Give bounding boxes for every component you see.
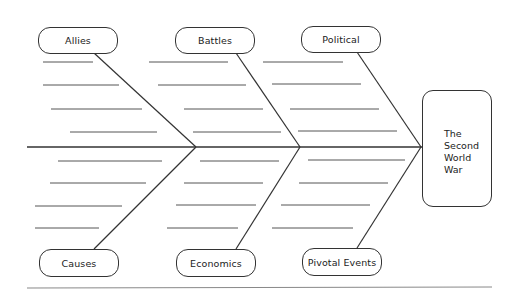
blank-lines-pivotal-events: [272, 160, 405, 228]
blank-lines-political: [263, 62, 397, 131]
bone-pivotal-events: [357, 147, 421, 248]
effect-line: Second: [444, 140, 479, 152]
category-box-economics: Economics: [176, 249, 256, 277]
category-label: Causes: [62, 258, 97, 269]
effect-line: War: [444, 164, 479, 176]
category-label: Political: [322, 34, 359, 45]
effect-label: The Second World War: [444, 128, 479, 176]
blank-lines-causes: [35, 161, 162, 228]
effect-line: The: [444, 128, 479, 140]
bone-battles: [236, 53, 300, 147]
category-box-causes: Causes: [39, 249, 119, 277]
bone-causes: [94, 147, 196, 249]
blank-lines-allies: [43, 62, 157, 132]
category-label: Economics: [190, 258, 242, 269]
category-box-pivotal-events: Pivotal Events: [302, 248, 382, 276]
bone-allies: [94, 53, 196, 147]
bone-political: [357, 52, 421, 147]
bone-economics: [236, 147, 300, 249]
category-label: Battles: [198, 35, 232, 46]
category-box-battles: Battles: [175, 27, 255, 54]
effect-line: World: [444, 152, 479, 164]
category-label: Pivotal Events: [308, 257, 376, 268]
category-box-political: Political: [301, 26, 381, 53]
category-label: Allies: [65, 35, 91, 46]
bottom-rule: [27, 287, 492, 288]
effect-box: The Second World War: [422, 90, 492, 207]
blank-lines-economics: [167, 161, 279, 228]
category-box-allies: Allies: [38, 27, 118, 54]
